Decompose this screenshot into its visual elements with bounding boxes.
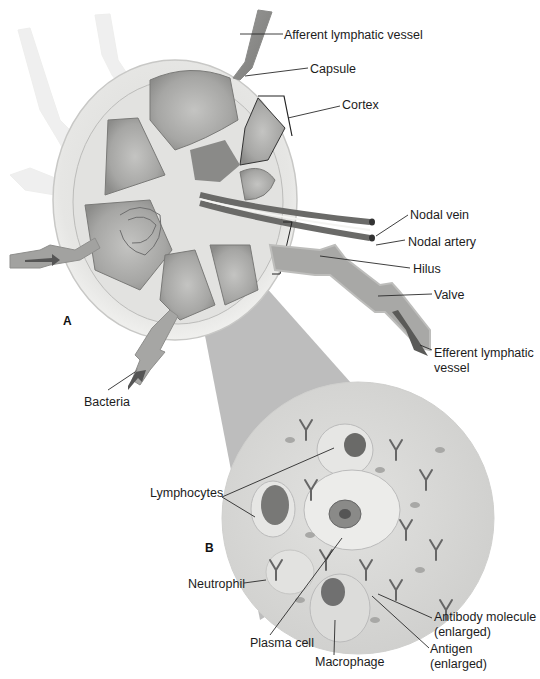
label-plasma-cell: Plasma cell — [250, 636, 314, 650]
label-lymphocytes: Lymphocytes — [150, 486, 223, 500]
panel-b-letter: B — [205, 541, 214, 555]
lymph-node-section — [53, 60, 375, 340]
label-efferent-lymphatic-vessel-line1: Efferent lymphatic — [434, 346, 534, 360]
label-antigen-line1: Antigen — [430, 642, 472, 656]
figure-artwork — [0, 0, 540, 679]
figure-caption-cutoff — [6, 668, 536, 679]
label-antibody-molecule-line2: (enlarged) — [434, 625, 491, 639]
lymph-node-figure: A B Afferent lymphatic vessel Capsule Co… — [0, 0, 540, 679]
label-macrophage: Macrophage — [315, 655, 385, 669]
label-afferent-lymphatic-vessel: Afferent lymphatic vessel — [284, 28, 423, 42]
label-neutrophil: Neutrophil — [188, 577, 245, 591]
label-bacteria: Bacteria — [84, 395, 130, 409]
label-nodal-vein: Nodal vein — [410, 208, 469, 222]
label-hilus: Hilus — [413, 262, 441, 276]
panel-a-letter: A — [63, 314, 72, 328]
label-antibody-molecule-line1: Antibody molecule — [434, 610, 536, 624]
label-capsule: Capsule — [310, 62, 356, 76]
label-cortex: Cortex — [342, 98, 379, 112]
afferent-vessel-top — [233, 10, 272, 80]
neutrophil-cell — [266, 550, 314, 594]
label-efferent-lymphatic-vessel-line2: vessel — [434, 361, 469, 375]
label-valve: Valve — [434, 288, 464, 302]
label-nodal-artery: Nodal artery — [408, 235, 476, 249]
